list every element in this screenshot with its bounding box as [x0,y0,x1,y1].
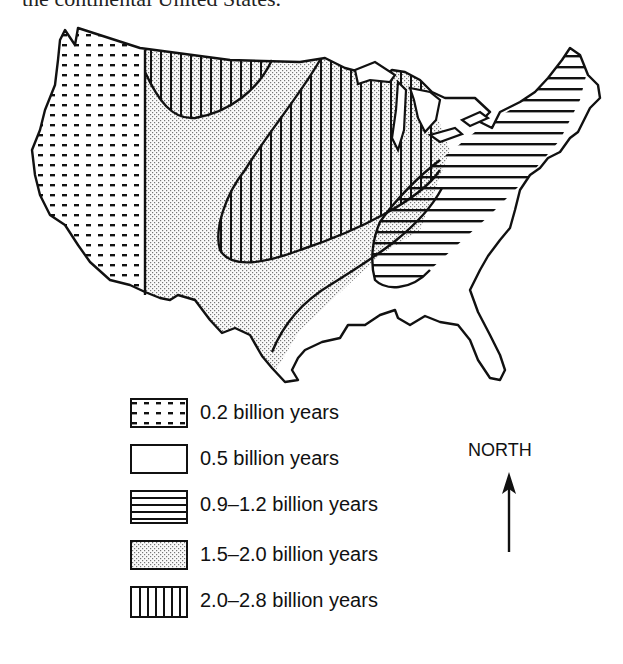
region-0-2-by [0,0,145,300]
legend-label: 1.5–2.0 billion years [200,543,378,566]
pattern-swatch-dots-icon [130,398,188,428]
compass: NORTH [468,440,558,550]
north-arrow-icon [468,468,558,558]
pattern-swatch-vertical-lines-icon [130,586,188,618]
pattern-swatch-horizontal-lines-icon [130,490,188,524]
legend-item-vertical: 2.0–2.8 billion years [130,586,470,618]
legend-label: 0.5 billion years [200,447,339,470]
legend-label: 2.0–2.8 billion years [200,589,378,612]
legend-item-horizontal: 0.9–1.2 billion years [130,490,470,522]
us-crust-age-map [0,0,623,400]
legend-item-blank: 0.5 billion years [130,444,470,476]
legend-label: 0.2 billion years [200,401,339,424]
legend-item-stipple: 1.5–2.0 billion years [130,540,470,572]
legend-item-dots: 0.2 billion years [130,398,470,430]
legend-label: 0.9–1.2 billion years [200,493,378,516]
pattern-swatch-stipple-icon [130,540,188,570]
pattern-swatch-blank-icon [130,444,188,474]
north-label: NORTH [468,440,532,461]
